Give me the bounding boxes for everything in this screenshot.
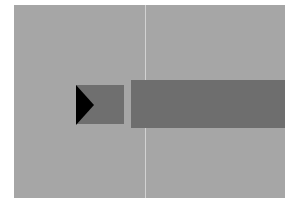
triangle-right-icon [76, 85, 94, 125]
long-bar [131, 80, 285, 128]
